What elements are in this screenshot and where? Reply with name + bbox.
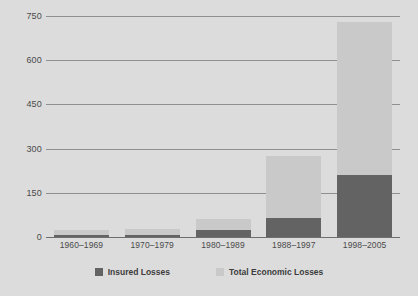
x-tick-label: 1998–2005 xyxy=(343,240,386,250)
legend-swatch-icon xyxy=(95,268,103,276)
x-tick-label: 1980–1989 xyxy=(201,240,244,250)
y-tick-label: 150 xyxy=(26,188,42,198)
y-axis: 0150300450600750 xyxy=(0,16,42,237)
x-tick-label: 1960–1969 xyxy=(60,240,103,250)
bar-group xyxy=(125,229,180,237)
y-tick-label: 0 xyxy=(37,232,42,242)
bar-segment-insured-losses xyxy=(337,175,392,237)
x-tick-label: 1988–1997 xyxy=(272,240,315,250)
bar-segment-insured-losses xyxy=(54,235,109,237)
axis-baseline xyxy=(46,237,400,238)
x-axis: 1960–19691970–19791980–19891988–19971998… xyxy=(46,240,400,254)
legend-swatch-icon xyxy=(216,268,224,276)
bar-segment-insured-losses xyxy=(196,230,251,237)
bar-group xyxy=(196,219,251,237)
bar-group xyxy=(54,230,109,237)
stacked-bar-chart: 0150300450600750 1960–19691970–19791980–… xyxy=(0,0,418,296)
bar-group xyxy=(337,22,392,237)
x-tick-label: 1970–1979 xyxy=(130,240,173,250)
y-tick-label: 450 xyxy=(26,99,42,109)
bars-layer xyxy=(46,16,400,237)
y-tick-label: 750 xyxy=(26,11,42,21)
bar-segment-insured-losses xyxy=(266,218,321,237)
y-tick-label: 300 xyxy=(26,144,42,154)
bar-segment-insured-losses xyxy=(125,235,180,237)
y-tick-label: 600 xyxy=(26,55,42,65)
plot-area xyxy=(46,16,400,237)
legend-item: Insured Losses xyxy=(95,267,170,277)
chart-legend: Insured LossesTotal Economic Losses xyxy=(0,267,418,277)
bar-group xyxy=(266,156,321,237)
legend-label: Total Economic Losses xyxy=(229,267,323,277)
legend-item: Total Economic Losses xyxy=(216,267,323,277)
legend-label: Insured Losses xyxy=(108,267,170,277)
